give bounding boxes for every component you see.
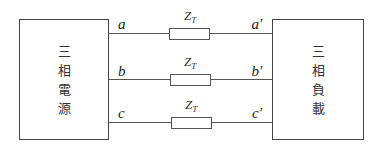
terminal-c-prime: c′ — [252, 105, 263, 121]
source-char-4: 源 — [58, 101, 71, 116]
terminal-a-prime: a′ — [252, 16, 264, 32]
impedance-label-a: ZT — [184, 8, 197, 25]
load-char-4: 載 — [312, 101, 325, 116]
load-char-2: 相 — [312, 63, 325, 78]
terminal-b-prime: b′ — [252, 63, 264, 79]
line-c: c c′ ZT — [108, 97, 272, 129]
impedance-label-b: ZT — [184, 54, 197, 71]
line-a: a a′ ZT — [108, 8, 272, 40]
source-char-2: 相 — [58, 63, 71, 78]
terminal-b: b — [118, 63, 126, 79]
load-box: 三 相 負 載 — [273, 20, 364, 140]
impedance-label-c: ZT — [185, 97, 198, 114]
impedance-a — [170, 29, 210, 40]
source-char-3: 電 — [58, 82, 71, 97]
source-char-1: 三 — [58, 44, 71, 59]
source-box: 三 相 電 源 — [20, 20, 109, 140]
load-char-1: 三 — [312, 44, 325, 59]
terminal-a: a — [118, 16, 126, 32]
impedance-b — [171, 75, 211, 86]
line-b: b b′ ZT — [108, 54, 272, 86]
load-char-3: 負 — [312, 82, 325, 97]
terminal-c: c — [118, 105, 125, 121]
three-phase-diagram: 三 相 電 源 三 相 負 載 a a′ ZT b b′ ZT c c′ ZT — [0, 0, 382, 154]
impedance-c — [172, 118, 212, 129]
